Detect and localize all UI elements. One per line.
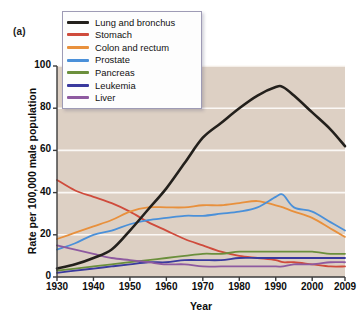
figure-panel-a: (a) Rate per 100,000 male population Yea…	[0, 0, 364, 320]
legend-item-label: Liver	[95, 93, 115, 102]
legend-item: Liver	[67, 92, 196, 105]
legend-item: Pancreas	[67, 66, 196, 79]
legend-item-label: Stomach	[95, 30, 132, 39]
x-tick-label: 1960	[146, 281, 186, 292]
y-tick-label: 80	[17, 101, 51, 112]
legend-swatch-icon	[67, 84, 89, 87]
x-tick-label: 2009	[325, 281, 364, 292]
y-tick-label: 40	[17, 186, 51, 197]
x-tick-label: 1970	[183, 281, 223, 292]
legend-item-label: Prostate	[95, 55, 130, 64]
x-tick-label: 1940	[73, 281, 113, 292]
y-tick-label: 0	[17, 270, 51, 281]
legend-item-label: Colon and rectum	[95, 43, 169, 52]
legend-swatch-icon	[67, 33, 89, 36]
y-tick-label: 20	[17, 228, 51, 239]
x-tick-label: 1930	[37, 281, 77, 292]
y-tick-label: 100	[17, 59, 51, 70]
legend-item: Colon and rectum	[67, 41, 196, 54]
x-axis-title: Year	[57, 300, 345, 312]
legend-swatch-icon	[67, 96, 89, 99]
legend-swatch-icon	[67, 21, 89, 24]
legend-item: Stomach	[67, 29, 196, 42]
legend-item: Prostate	[67, 54, 196, 67]
y-tick-label: 60	[17, 143, 51, 154]
chart-legend: Lung and bronchusStomachColon and rectum…	[62, 11, 202, 109]
legend-swatch-icon	[67, 71, 89, 74]
legend-swatch-icon	[67, 46, 89, 49]
x-tick-label: 1990	[256, 281, 296, 292]
legend-item: Leukemia	[67, 79, 196, 92]
x-tick-label: 1980	[219, 281, 259, 292]
panel-label: (a)	[13, 26, 26, 37]
legend-item: Lung and bronchus	[67, 16, 196, 29]
legend-swatch-icon	[67, 59, 89, 62]
legend-item-label: Pancreas	[95, 68, 135, 77]
x-tick-label: 1950	[110, 281, 150, 292]
legend-item-label: Leukemia	[95, 81, 136, 90]
legend-item-label: Lung and bronchus	[95, 18, 175, 27]
